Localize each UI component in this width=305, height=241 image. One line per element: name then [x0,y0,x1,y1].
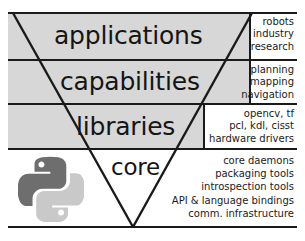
layer-examples-capabilities: planning mapping navigation [241,64,294,101]
example-item: API & language bindings [172,194,294,207]
example-item: core daemons [172,154,294,167]
example-item: navigation [241,89,294,101]
layer-label-capabilities: capabilities [60,67,200,96]
layer-examples-core: core daemons packaging tools introspecti… [172,154,294,220]
example-item: research [251,41,294,53]
example-item: robots [251,16,294,28]
layer-row-capabilities: capabilities planning mapping navigation [8,59,297,105]
example-item: comm. infrastructure [172,207,294,220]
layer-label-applications: applications [54,21,203,50]
column-divider [203,105,205,148]
diagram-canvas: applications robots industry research ca… [0,0,305,241]
layer-row-applications: applications robots industry research [8,12,297,61]
example-item: industry [251,28,294,40]
layer-label-libraries: libraries [76,112,175,141]
example-item: opencv, tf [209,108,294,120]
example-item: hardware drivers [209,133,294,145]
example-item: mapping [241,76,294,88]
python-logo [18,152,84,222]
example-item: pcl, kdl, cisst [209,120,294,132]
example-item: planning [241,64,294,76]
layer-examples-libraries: opencv, tf pcl, kdl, cisst hardware driv… [209,108,294,145]
example-item: introspection tools [172,180,294,193]
layer-label-core: core [111,154,160,180]
layer-examples-applications: robots industry research [251,16,294,53]
layer-row-libraries: libraries opencv, tf pcl, kdl, cisst har… [8,103,297,150]
example-item: packaging tools [172,167,294,180]
